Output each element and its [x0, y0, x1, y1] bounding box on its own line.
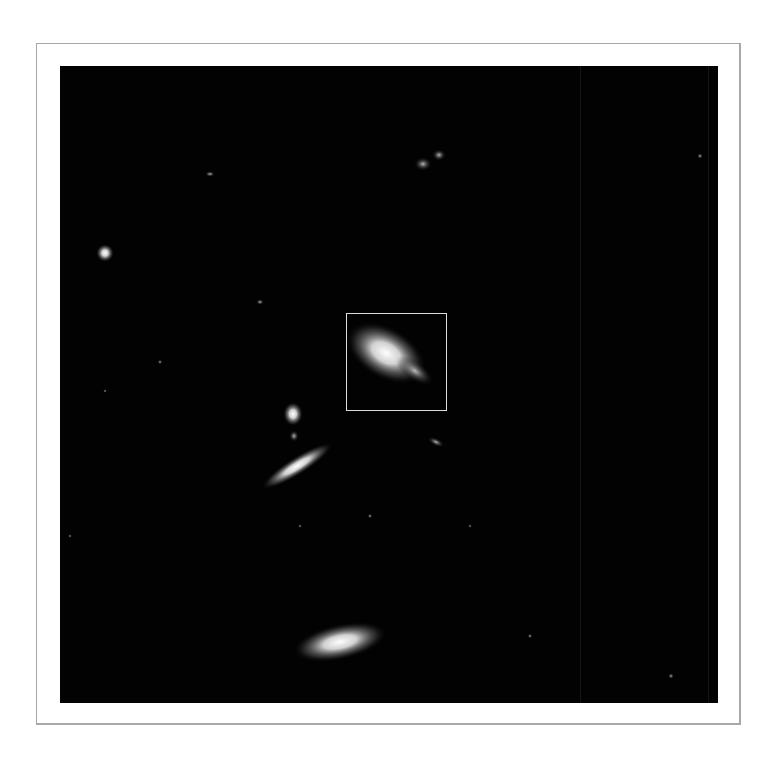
galaxy-edge-on — [257, 436, 338, 496]
faint-object — [103, 389, 107, 393]
faint-object — [158, 360, 163, 365]
image-seam — [708, 66, 709, 703]
galaxy-small-2 — [289, 430, 299, 442]
galaxy-bright-bottom — [289, 614, 390, 669]
astronomical-image — [60, 66, 718, 703]
faint-object — [368, 514, 373, 519]
faint-object — [528, 634, 533, 639]
galaxy-small — [283, 402, 303, 426]
galaxy-pair-a — [414, 157, 432, 171]
faint-object — [668, 673, 674, 679]
faint-object — [697, 153, 703, 159]
faint-object — [426, 435, 446, 450]
faint-object — [298, 524, 302, 528]
faint-object — [468, 524, 472, 528]
star-left — [96, 244, 114, 262]
faint-object — [205, 171, 215, 177]
faint-object — [68, 534, 72, 538]
region-of-interest-box — [346, 313, 447, 411]
faint-object — [256, 299, 264, 305]
galaxy-pair-b — [432, 149, 446, 161]
image-seam — [580, 66, 581, 703]
